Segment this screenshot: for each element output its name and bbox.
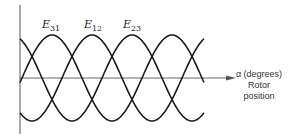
axis-label-position: position — [243, 91, 274, 101]
axis-arrow-icon — [226, 76, 236, 81]
label-e23: E23 — [122, 18, 141, 33]
waveform-diagram: E31 E12 E23 α (degrees) Rotor position — [0, 0, 293, 138]
axis-label-rotor: Rotor — [248, 80, 270, 90]
axis-label-alpha: α (degrees) — [236, 69, 282, 79]
label-e12: E12 — [83, 18, 102, 33]
label-e31: E31 — [41, 18, 60, 33]
